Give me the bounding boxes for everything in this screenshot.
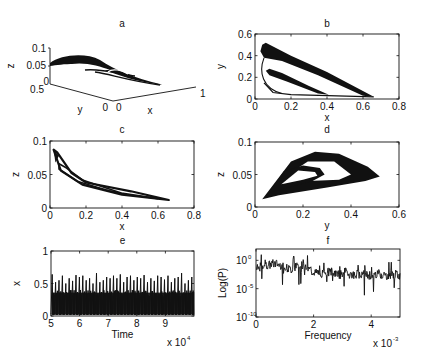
x-multiplier-label: x 10 — [167, 337, 186, 348]
z-tick-label: 0 — [43, 76, 49, 87]
y-tick-label: 0.05 — [233, 170, 253, 181]
y-tick-label: 0.2 — [238, 72, 252, 83]
x-tick-label: 0.4 — [115, 210, 129, 221]
x-multiplier-exponent: 4 — [187, 335, 191, 341]
x-tick-label: 7 — [105, 318, 111, 329]
axes-box — [255, 34, 399, 99]
x-tick-label: 0 — [253, 319, 259, 330]
x-tick-label: 0.2 — [284, 101, 298, 112]
panel-f: f02410010-510-10FrequencyLog(P)x 10-3 — [217, 235, 400, 349]
attractor-loop — [85, 70, 160, 85]
y-tick-label: 0.5 — [30, 84, 44, 95]
x-tick-label: 0.6 — [392, 209, 406, 220]
panel-title: f — [327, 235, 330, 246]
y-tick-exponent: -5 — [248, 283, 254, 289]
z-axis-label: z — [5, 64, 16, 69]
z-tick-label: 0.05 — [27, 60, 47, 71]
x-axis-label: x — [325, 112, 330, 123]
x-tick-label: 0 — [116, 102, 122, 113]
panel-e: e5678900.51Timexx 104 — [11, 235, 194, 348]
panel-d: d00.20.40.600.050.1yz — [215, 124, 406, 231]
panel-b: b00.20.40.60.800.20.40.6xy — [215, 18, 406, 123]
x-multiplier-label: x 10 — [373, 338, 392, 349]
y-axis-label: z — [215, 172, 226, 177]
x-tick-label: 0 — [252, 209, 258, 220]
x-tick-label: 0.2 — [79, 210, 93, 221]
panel-a: a0.10.050z0.5001yx — [5, 18, 206, 116]
y-tick-label: 10 — [236, 312, 248, 323]
x-tick-label: 8 — [134, 318, 140, 329]
y-axis-label: y — [78, 104, 83, 115]
attractor-band — [50, 55, 162, 85]
panel-title: b — [324, 18, 330, 29]
x-tick-label: 0.8 — [187, 210, 201, 221]
y-tick-label: 0 — [246, 202, 252, 213]
y-axis-label: z — [10, 172, 21, 177]
y-tick-label: 10 — [236, 284, 248, 295]
attractor-outer-band — [260, 43, 373, 97]
x-axis-label: Frequency — [304, 330, 351, 341]
x-multiplier-exponent: -3 — [393, 336, 399, 342]
x-tick-label: 6 — [77, 318, 83, 329]
spectrum-line — [256, 255, 400, 296]
panel-c: c00.20.40.60.800.050.1xz — [10, 124, 201, 232]
x-tick-label: 0 — [252, 101, 258, 112]
y-tick-label: 0.5 — [34, 279, 48, 290]
y-tick-label: 1 — [42, 246, 48, 257]
panel-title: a — [119, 18, 125, 29]
x-tick-label: 2 — [311, 319, 317, 330]
x-tick-label: 0.8 — [392, 101, 406, 112]
axes-box — [256, 249, 400, 317]
y-axis-label: y — [215, 64, 226, 69]
x-tick-label: 0.4 — [320, 101, 334, 112]
x-tick-label: 0 — [47, 210, 53, 221]
panel-title: d — [324, 124, 330, 135]
x-axis-label: x — [148, 105, 153, 116]
y-axis-label: x — [11, 281, 22, 286]
y-tick-label: 0.4 — [238, 51, 252, 62]
y-tick-label: 0 — [246, 94, 252, 105]
y-tick-label: 10 — [236, 255, 248, 266]
z-tick-label: 0.1 — [32, 43, 46, 54]
x-tick-label: 0.4 — [344, 209, 358, 220]
y-tick-exponent: -10 — [248, 311, 257, 317]
y-tick-label: 0 — [102, 102, 108, 113]
y-axis-label: Log(P) — [217, 268, 228, 298]
x-tick-label: 0.2 — [296, 209, 310, 220]
x-axis-label: x — [120, 221, 125, 232]
x-tick-label: 0.6 — [151, 210, 165, 221]
y-tick-label: 0.1 — [238, 137, 252, 148]
y-tick-label: 0 — [41, 203, 47, 214]
x-tick-label: 9 — [163, 318, 169, 329]
x-tick-label: 5 — [48, 318, 54, 329]
y-tick-label: 0.6 — [238, 29, 252, 40]
attractor-loop — [54, 150, 169, 200]
x-tick-label: 4 — [368, 319, 374, 330]
panel-title: c — [120, 124, 125, 135]
x-tick-label: 0.6 — [356, 101, 370, 112]
x-axis-label: Time — [112, 329, 134, 340]
panel-title: e — [120, 235, 126, 246]
y-tick-label: 0.1 — [33, 136, 47, 147]
x-tick-label: 1 — [200, 88, 206, 99]
y-tick-exponent: 0 — [248, 254, 252, 260]
y-tick-label: 0.05 — [28, 170, 48, 181]
x-axis-label: y — [325, 220, 330, 231]
y-tick-label: 0 — [42, 311, 48, 322]
figure-canvas: a0.10.050z0.5001yxb00.20.40.60.800.20.40… — [0, 0, 425, 360]
